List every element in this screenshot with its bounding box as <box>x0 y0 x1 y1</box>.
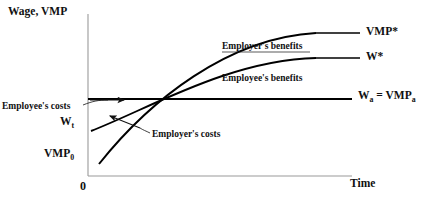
wt-sub: t <box>72 121 75 130</box>
origin-label: 0 <box>80 180 86 192</box>
wt-label: Wt <box>60 116 74 130</box>
employees-costs-label: Employee's costs <box>2 102 70 112</box>
employers-costs-connector <box>140 128 150 133</box>
vmp0-sub: 0 <box>70 153 74 162</box>
wt-main: W <box>60 115 72 127</box>
employers-costs-label: Employer's costs <box>152 130 220 140</box>
wa-vmpa-label: Wa = VMPa <box>358 90 416 104</box>
vmp0-label: VMP0 <box>44 148 74 162</box>
y-axis-title: Wage, VMP <box>8 6 67 18</box>
vmp-star-label: VMP* <box>366 26 398 38</box>
wa-vmpa-eq: = VMP <box>373 89 411 101</box>
x-axis-title: Time <box>350 178 375 190</box>
wa-vmpa-main: W <box>358 89 370 101</box>
wa-vmpa-sub2: a <box>412 95 416 104</box>
figure-canvas: Wage, VMP Time 0 VMP* W* Wa = VMPa Wt VM… <box>0 0 426 197</box>
employees-costs-connector <box>83 100 108 105</box>
employees-benefits-label: Employee's benefits <box>222 74 302 84</box>
vmp0-main: VMP <box>44 147 70 159</box>
employers-benefits-label: Employer's benefits <box>222 42 302 52</box>
wage-curve <box>91 58 316 131</box>
w-star-label: W* <box>366 51 383 63</box>
